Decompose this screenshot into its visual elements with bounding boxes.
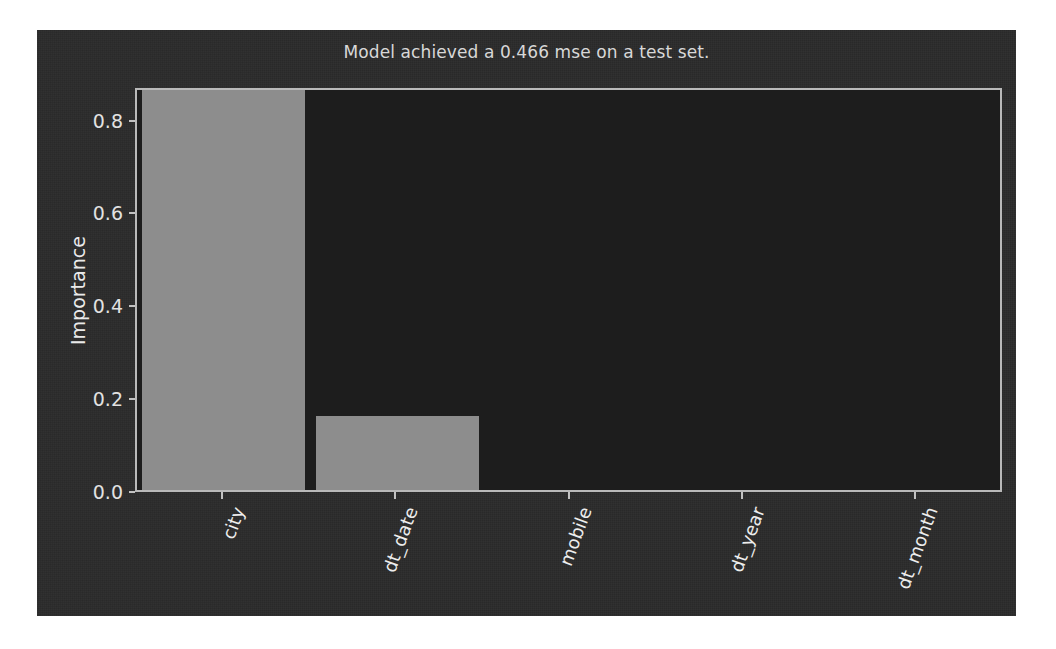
x-tick-mark (914, 492, 916, 499)
x-tick-label-dt_month: dt_month (854, 504, 942, 616)
figure-canvas: Model achieved a 0.466 mse on a test set… (37, 30, 1016, 616)
y-tick-label: 0.2 (93, 388, 123, 410)
x-tick-mark (568, 492, 570, 499)
bar-dt_date (316, 416, 479, 490)
chart-title: Model achieved a 0.466 mse on a test set… (37, 42, 1016, 62)
y-tick-label: 0.6 (93, 202, 123, 224)
y-tick-mark (129, 491, 135, 493)
y-tick-label: 0.4 (93, 295, 123, 317)
x-tick-mark (221, 492, 223, 499)
y-tick-mark (129, 398, 135, 400)
y-tick-mark (129, 305, 135, 307)
y-tick-label: 0.0 (93, 481, 123, 503)
x-tick-label-dt_date: dt_date (334, 504, 422, 616)
bar-city (142, 90, 305, 490)
y-tick-label: 0.8 (93, 110, 123, 132)
x-tick-label-city: city (160, 504, 248, 616)
x-tick-mark (741, 492, 743, 499)
bars-layer (137, 90, 1000, 490)
plot-area (135, 88, 1002, 492)
x-tick-mark (394, 492, 396, 499)
y-tick-mark (129, 212, 135, 214)
x-tick-label-dt_year: dt_year (680, 504, 768, 616)
x-tick-label-mobile: mobile (507, 504, 595, 616)
y-tick-mark (129, 120, 135, 122)
y-axis-label: Importance (67, 236, 89, 345)
